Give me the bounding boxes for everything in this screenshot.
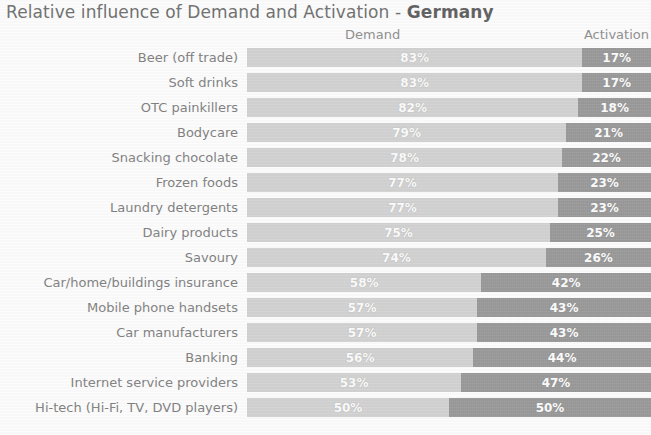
chart-row: Dairy products75%25% — [0, 223, 651, 248]
bar-segment-activation: 17% — [582, 73, 651, 92]
bar-segment-activation: 47% — [461, 373, 651, 392]
bar-segment-demand: 57% — [247, 298, 477, 317]
page-title: Relative influence of Demand and Activat… — [6, 2, 494, 22]
bar-segment-demand: 79% — [247, 123, 566, 142]
stacked-bar: 83%17% — [247, 48, 651, 67]
bar-value-demand: 83% — [400, 76, 429, 90]
chart-row: Laundry detergents77%23% — [0, 198, 651, 223]
bar-segment-activation: 23% — [558, 173, 651, 192]
chart-rows: Beer (off trade)83%17%Soft drinks83%17%O… — [0, 48, 651, 423]
bar-value-activation: 26% — [584, 251, 613, 265]
chart-row: Snacking chocolate78%22% — [0, 148, 651, 173]
stacked-bar: 75%25% — [247, 223, 651, 242]
chart-row-label: Dairy products — [0, 223, 238, 242]
chart-row: Bodycare79%21% — [0, 123, 651, 148]
bar-segment-activation: 25% — [550, 223, 651, 242]
chart-container: Relative influence of Demand and Activat… — [0, 0, 651, 435]
title-country-name: Germany — [407, 2, 494, 22]
bar-value-activation: 21% — [594, 126, 623, 140]
bar-value-activation: 43% — [550, 301, 579, 315]
bar-segment-demand: 57% — [247, 323, 477, 342]
chart-row: Banking56%44% — [0, 348, 651, 373]
bar-segment-demand: 53% — [247, 373, 461, 392]
chart-row: OTC painkillers82%18% — [0, 98, 651, 123]
bar-value-activation: 47% — [542, 376, 571, 390]
bar-value-demand: 79% — [392, 126, 421, 140]
bar-value-demand: 83% — [400, 51, 429, 65]
legend-label-demand: Demand — [345, 27, 400, 42]
stacked-bar: 57%43% — [247, 298, 651, 317]
bar-value-activation: 23% — [590, 201, 619, 215]
bar-value-activation: 44% — [548, 351, 577, 365]
bar-segment-demand: 74% — [247, 248, 546, 267]
chart-row: Savoury74%26% — [0, 248, 651, 273]
stacked-bar: 77%23% — [247, 198, 651, 217]
bar-segment-activation: 43% — [477, 323, 651, 342]
bar-value-demand: 78% — [390, 151, 419, 165]
chart-row-label: Mobile phone handsets — [0, 298, 238, 317]
chart-row: Car manufacturers57%43% — [0, 323, 651, 348]
bar-segment-demand: 50% — [247, 398, 449, 417]
bar-segment-activation: 23% — [558, 198, 651, 217]
chart-row-label: Internet service providers — [0, 373, 238, 392]
chart-row-label: Car manufacturers — [0, 323, 238, 342]
bar-value-activation: 23% — [590, 176, 619, 190]
chart-row-label: Snacking chocolate — [0, 148, 238, 167]
bar-value-demand: 53% — [340, 376, 369, 390]
bar-value-demand: 56% — [346, 351, 375, 365]
chart-row-label: Laundry detergents — [0, 198, 238, 217]
chart-row-label: OTC painkillers — [0, 98, 238, 117]
chart-row-label: Savoury — [0, 248, 238, 267]
bar-value-activation: 42% — [552, 276, 581, 290]
bar-segment-demand: 83% — [247, 48, 582, 67]
bar-value-demand: 75% — [384, 226, 413, 240]
bar-segment-activation: 44% — [473, 348, 651, 367]
bar-segment-demand: 78% — [247, 148, 562, 167]
stacked-bar: 79%21% — [247, 123, 651, 142]
bar-segment-activation: 22% — [562, 148, 651, 167]
bar-value-activation: 43% — [550, 326, 579, 340]
bar-value-activation: 22% — [592, 151, 621, 165]
bar-value-activation: 17% — [602, 76, 631, 90]
bar-value-demand: 74% — [382, 251, 411, 265]
chart-row: Mobile phone handsets57%43% — [0, 298, 651, 323]
bar-segment-activation: 18% — [578, 98, 651, 117]
chart-row-label: Soft drinks — [0, 73, 238, 92]
chart-row-label: Banking — [0, 348, 238, 367]
bar-segment-activation: 43% — [477, 298, 651, 317]
chart-row: Internet service providers53%47% — [0, 373, 651, 398]
stacked-bar: 50%50% — [247, 398, 651, 417]
chart-row-label: Hi-tech (Hi-Fi, TV, DVD players) — [0, 398, 238, 417]
stacked-bar: 58%42% — [247, 273, 651, 292]
bar-segment-demand: 75% — [247, 223, 550, 242]
bar-value-demand: 77% — [388, 201, 417, 215]
legend-label-activation: Activation — [584, 27, 649, 42]
bar-segment-demand: 77% — [247, 173, 558, 192]
bar-segment-demand: 77% — [247, 198, 558, 217]
title-plain-text: Relative influence of Demand and Activat… — [6, 2, 407, 22]
chart-row: Hi-tech (Hi-Fi, TV, DVD players)50%50% — [0, 398, 651, 423]
bar-segment-activation: 17% — [582, 48, 651, 67]
stacked-bar: 82%18% — [247, 98, 651, 117]
stacked-bar: 78%22% — [247, 148, 651, 167]
bar-value-demand: 50% — [334, 401, 363, 415]
chart-row-label: Beer (off trade) — [0, 48, 238, 67]
bar-segment-activation: 50% — [449, 398, 651, 417]
bar-value-activation: 17% — [602, 51, 631, 65]
stacked-bar: 56%44% — [247, 348, 651, 367]
bar-value-activation: 50% — [536, 401, 565, 415]
chart-row: Frozen foods77%23% — [0, 173, 651, 198]
chart-row: Beer (off trade)83%17% — [0, 48, 651, 73]
chart-row: Soft drinks83%17% — [0, 73, 651, 98]
bar-segment-activation: 26% — [546, 248, 651, 267]
bar-value-demand: 58% — [350, 276, 379, 290]
bar-segment-activation: 42% — [481, 273, 651, 292]
stacked-bar: 57%43% — [247, 323, 651, 342]
bar-value-activation: 18% — [600, 101, 629, 115]
bar-value-demand: 57% — [348, 301, 377, 315]
bar-value-demand: 82% — [398, 101, 427, 115]
chart-row-label: Bodycare — [0, 123, 238, 142]
stacked-bar: 53%47% — [247, 373, 651, 392]
chart-row: Car/home/buildings insurance58%42% — [0, 273, 651, 298]
bar-segment-demand: 58% — [247, 273, 481, 292]
